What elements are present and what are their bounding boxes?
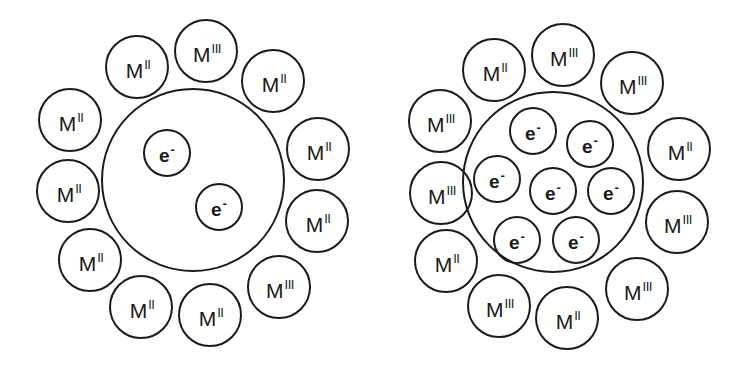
metal-ion-label: MIII — [624, 280, 652, 303]
electron-label: e- — [509, 230, 525, 252]
electron-label-superscript: - — [594, 133, 598, 148]
electron-label-base: e — [489, 171, 500, 192]
metal-ion-label: MII — [79, 251, 104, 274]
metal-ion-label-superscript: II — [453, 251, 459, 266]
metal-ion-label: MII — [435, 252, 460, 275]
metal-ion-label-base: M — [435, 253, 453, 276]
metal-ion-label: MII — [556, 309, 581, 332]
metal-ion-label: MIII — [193, 42, 221, 65]
diagram-canvas: MIIMIIMIIIMIIMIIMIIMIIIMIIMIIMIIMIIe-e-M… — [0, 0, 749, 377]
metal-ion-label-superscript: III — [638, 73, 647, 88]
metal-ion-label-superscript: II — [501, 60, 507, 75]
metal-ion-label: MII — [126, 58, 151, 81]
electron-label-superscript: - — [501, 168, 505, 183]
metal-ion-label-base: M — [486, 298, 504, 321]
metal-ion-label-superscript: II — [97, 250, 103, 265]
metal-ion-label: MII — [262, 72, 287, 95]
electron-label-superscript: - — [557, 180, 561, 195]
electron-label-superscript: - — [223, 196, 227, 211]
electron-label: e- — [603, 181, 619, 203]
metal-ion-label: MII — [483, 61, 508, 84]
electron-label: e- — [568, 230, 584, 252]
metal-ion-label-superscript: II — [217, 305, 223, 320]
metal-ion-label: MII — [668, 140, 693, 163]
electron-label-superscript: - — [580, 229, 584, 244]
metal-ion-label-base: M — [266, 279, 284, 302]
metal-ion-label: MIII — [619, 74, 647, 97]
left-cluster-core-circle — [101, 88, 285, 272]
electron-label: e- — [489, 169, 505, 191]
metal-ion-label-base: M — [556, 310, 574, 333]
metal-ion-label-superscript: III — [643, 279, 652, 294]
metal-ion-label-base: M — [664, 214, 682, 237]
metal-ion-label: MII — [307, 140, 332, 163]
metal-ion-label-base: M — [624, 281, 642, 304]
metal-ion-label: MII — [59, 111, 84, 134]
metal-ion-label-base: M — [193, 43, 211, 66]
metal-ion-label-base: M — [79, 252, 97, 275]
electron-label: e- — [159, 143, 175, 165]
metal-ion-label-base: M — [668, 141, 686, 164]
metal-ion-label: MIII — [427, 112, 455, 135]
metal-ion-label-base: M — [619, 75, 637, 98]
metal-ion-label-superscript: II — [148, 297, 154, 312]
metal-ion-label-base: M — [306, 213, 324, 236]
electron-label: e- — [582, 134, 598, 156]
metal-ion-label: MIII — [428, 184, 456, 207]
metal-ion-label-base: M — [130, 299, 148, 322]
metal-ion-label: MII — [306, 212, 331, 235]
metal-ion-label: MIII — [550, 46, 578, 69]
electron-label-base: e — [545, 183, 556, 204]
electron-label: e- — [211, 197, 227, 219]
metal-ion-label: MIII — [664, 213, 692, 236]
electron-label-superscript: - — [537, 120, 541, 135]
electron-label-base: e — [159, 145, 170, 166]
metal-ion-label-superscript: III — [447, 183, 456, 198]
electron-label-base: e — [509, 232, 520, 253]
electron-label-base: e — [582, 136, 593, 157]
metal-ion-label-base: M — [483, 62, 501, 85]
electron-label: e- — [525, 121, 541, 143]
metal-ion-label: MIII — [486, 297, 514, 320]
metal-ion-label-superscript: III — [569, 45, 578, 60]
metal-ion-label-base: M — [307, 141, 325, 164]
metal-ion-label-superscript: II — [324, 211, 330, 226]
metal-ion-label-superscript: II — [75, 181, 81, 196]
metal-ion-label-superscript: III — [285, 277, 294, 292]
electron-label: e- — [545, 181, 561, 203]
metal-ion-label-superscript: II — [280, 71, 286, 86]
electron-label-superscript: - — [521, 229, 525, 244]
metal-ion-label-superscript: II — [686, 139, 692, 154]
metal-ion-label-base: M — [59, 112, 77, 135]
electron-label-base: e — [568, 232, 579, 253]
metal-ion-label-base: M — [126, 59, 144, 82]
metal-ion-label-superscript: II — [574, 308, 580, 323]
electron-label-base: e — [525, 123, 536, 144]
metal-ion-label: MII — [57, 182, 82, 205]
metal-ion-label-superscript: III — [683, 212, 692, 227]
electron-label-superscript: - — [171, 142, 175, 157]
metal-ion-label-base: M — [550, 47, 568, 70]
metal-ion-label-base: M — [262, 73, 280, 96]
metal-ion-label-base: M — [428, 185, 446, 208]
electron-label-base: e — [603, 183, 614, 204]
electron-label-superscript: - — [615, 180, 619, 195]
metal-ion-label-superscript: III — [505, 296, 514, 311]
metal-ion-label-base: M — [199, 307, 217, 330]
metal-ion-label-superscript: II — [325, 139, 331, 154]
metal-ion-label-superscript: II — [144, 57, 150, 72]
metal-ion-label-superscript: II — [77, 110, 83, 125]
metal-ion-label-base: M — [427, 113, 445, 136]
metal-ion-label: MII — [199, 306, 224, 329]
metal-ion-label: MII — [130, 298, 155, 321]
metal-ion-label-base: M — [57, 183, 75, 206]
metal-ion-label-superscript: III — [446, 111, 455, 126]
electron-label-base: e — [211, 199, 222, 220]
metal-ion-label-superscript: III — [212, 41, 221, 56]
metal-ion-label: MIII — [266, 278, 294, 301]
